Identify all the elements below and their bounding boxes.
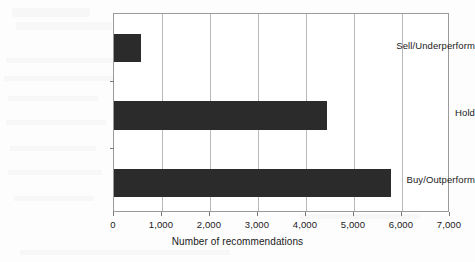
scan-ghost-artifact bbox=[20, 250, 230, 255]
x-axis-tick bbox=[113, 212, 114, 216]
scan-ghost-artifact bbox=[6, 120, 106, 125]
x-axis-label-3000: 3,000 bbox=[245, 219, 269, 230]
scan-ghost-artifact bbox=[8, 96, 98, 101]
plot-area bbox=[113, 13, 449, 212]
x-axis-title: Number of recommendations bbox=[0, 236, 475, 247]
scan-ghost-artifact bbox=[8, 170, 102, 175]
bar-buy-outperform bbox=[114, 169, 391, 197]
x-axis-label-1000: 1,000 bbox=[149, 219, 173, 230]
x-axis-label-2000: 2,000 bbox=[197, 219, 221, 230]
x-axis-tick bbox=[449, 212, 450, 216]
x-axis-tick bbox=[161, 212, 162, 216]
scan-ghost-artifact bbox=[12, 8, 90, 17]
gridline-6000 bbox=[402, 14, 403, 211]
x-axis-label-0: 0 bbox=[110, 219, 115, 230]
scan-ghost-artifact bbox=[10, 146, 96, 151]
scan-ghost-artifact bbox=[16, 22, 112, 30]
y-axis-tick bbox=[110, 148, 114, 149]
scan-ghost-artifact bbox=[300, 214, 420, 219]
bar-sell-underperform bbox=[114, 34, 141, 62]
bar-chart: Sell/Underperform Hold Buy/Outperform 0 … bbox=[0, 0, 475, 262]
x-axis-tick bbox=[209, 212, 210, 216]
x-axis-label-6000: 6,000 bbox=[389, 219, 413, 230]
x-axis-label-4000: 4,000 bbox=[293, 219, 317, 230]
x-axis-tick bbox=[257, 212, 258, 216]
x-axis-label-5000: 5,000 bbox=[341, 219, 365, 230]
bar-hold bbox=[114, 101, 327, 130]
y-axis-tick bbox=[110, 81, 114, 82]
x-axis-label-7000: 7,000 bbox=[437, 219, 461, 230]
scan-ghost-artifact bbox=[14, 196, 94, 201]
